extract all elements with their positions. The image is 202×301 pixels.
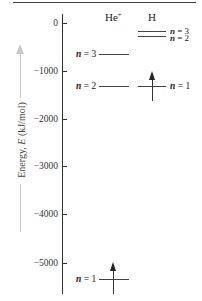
h-level-n2 bbox=[138, 36, 166, 37]
he-level-label-n2: n = 2 bbox=[76, 81, 96, 91]
he-level-label-n3: n = 3 bbox=[76, 49, 96, 59]
h-level-label-n2: n = 2 bbox=[170, 33, 189, 43]
he-level-n1 bbox=[99, 279, 129, 280]
he-level-n3 bbox=[99, 54, 129, 55]
y-tick-0 bbox=[62, 23, 67, 24]
arrow-up-icon bbox=[149, 71, 155, 80]
column-header-h: H bbox=[148, 11, 156, 23]
y-tick-5000 bbox=[62, 263, 67, 264]
y-tick-label: −3000 bbox=[8, 161, 58, 171]
y-tick-label: 0 bbox=[8, 18, 58, 28]
column-header-he-plus: He+ bbox=[105, 11, 122, 23]
y-tick-label: −2000 bbox=[8, 114, 58, 124]
y-tick-3000 bbox=[62, 166, 67, 167]
he-level-n2 bbox=[99, 86, 129, 87]
y-axis-line bbox=[62, 14, 63, 294]
top-rule bbox=[13, 2, 196, 3]
arrow-up-icon bbox=[110, 262, 116, 271]
y-tick-label: −1000 bbox=[8, 66, 58, 76]
y-tick-1000 bbox=[62, 71, 67, 72]
y-tick-label: −4000 bbox=[8, 209, 58, 219]
y-tick-label: −5000 bbox=[8, 258, 58, 268]
y-tick-4000 bbox=[62, 214, 67, 215]
he-level-label-n1: n = 1 bbox=[76, 274, 96, 284]
arrow-up-icon bbox=[16, 44, 24, 54]
h-level-label-n1: n = 1 bbox=[170, 81, 190, 91]
y-tick-2000 bbox=[62, 119, 67, 120]
h-level-n3 bbox=[138, 31, 166, 32]
